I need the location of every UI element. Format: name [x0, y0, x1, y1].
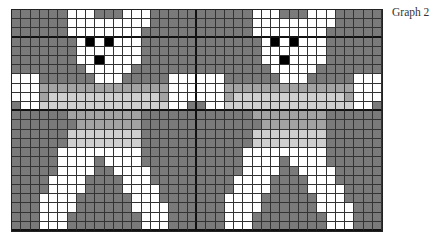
grid-cell — [151, 93, 160, 102]
grid-cell — [21, 38, 30, 47]
grid-cell — [206, 130, 215, 139]
grid-cell — [40, 74, 49, 83]
grid-cell — [243, 176, 252, 185]
grid-cell — [169, 222, 178, 231]
grid-cell — [49, 148, 58, 157]
grid-cell — [86, 213, 95, 222]
grid-cell — [179, 38, 188, 47]
grid-cell — [68, 102, 77, 111]
grid-cell — [253, 47, 262, 56]
grid-cell — [336, 139, 345, 148]
grid-cell — [142, 213, 151, 222]
grid-cell — [327, 222, 336, 231]
grid-cell — [68, 10, 77, 19]
grid-cell — [336, 47, 345, 56]
grid-cell — [77, 157, 86, 166]
grid-cell — [197, 56, 206, 65]
grid-cell — [114, 10, 123, 19]
grid-cell — [345, 130, 354, 139]
grid-cell — [373, 148, 382, 157]
grid-cell — [308, 65, 317, 74]
grid-cell — [179, 74, 188, 83]
grid-cell — [105, 10, 114, 19]
grid-cell — [373, 102, 382, 111]
grid-cell — [345, 203, 354, 212]
grid-cell — [234, 56, 243, 65]
grid-cell — [271, 28, 280, 37]
grid-cell — [95, 74, 104, 83]
grid-cell — [206, 157, 215, 166]
grid-cell — [373, 222, 382, 231]
grid-cell — [132, 47, 141, 56]
grid-cell — [169, 203, 178, 212]
grid-cell — [197, 10, 206, 19]
grid-cell — [280, 194, 289, 203]
grid-cell — [49, 176, 58, 185]
grid-cell — [290, 28, 299, 37]
grid-cell — [364, 10, 373, 19]
grid-cell — [317, 102, 326, 111]
grid-cell — [114, 148, 123, 157]
grid-cell — [68, 19, 77, 28]
grid-cell — [253, 111, 262, 120]
grid-cell — [299, 93, 308, 102]
grid-cell — [262, 56, 271, 65]
grid-cell — [21, 213, 30, 222]
grid-cell — [105, 194, 114, 203]
grid-cell — [114, 139, 123, 148]
grid-cell — [179, 120, 188, 129]
grid-cell — [105, 102, 114, 111]
grid-cell — [49, 74, 58, 83]
grid-cell — [21, 222, 30, 231]
grid-cell — [49, 10, 58, 19]
grid-cell — [123, 10, 132, 19]
grid-cell — [77, 84, 86, 93]
grid-cell — [271, 19, 280, 28]
grid-cell — [354, 19, 363, 28]
grid-cell — [327, 157, 336, 166]
grid-cell — [225, 130, 234, 139]
grid-cell — [12, 203, 21, 212]
grid-cell — [151, 139, 160, 148]
grid-cell — [179, 203, 188, 212]
grid-cell — [114, 47, 123, 56]
grid-cell — [317, 38, 326, 47]
grid-cell — [86, 157, 95, 166]
grid-cell — [105, 84, 114, 93]
grid-cell — [123, 157, 132, 166]
grid-cell — [262, 93, 271, 102]
grid-cell — [345, 167, 354, 176]
grid-cell — [12, 222, 21, 231]
grid-cell — [12, 74, 21, 83]
grid-cell — [40, 38, 49, 47]
grid-cell — [364, 157, 373, 166]
grid-cell — [77, 65, 86, 74]
grid-cell — [12, 185, 21, 194]
grid-cell — [299, 157, 308, 166]
grid-cell — [160, 130, 169, 139]
grid-cell — [234, 120, 243, 129]
grid-cell — [234, 84, 243, 93]
grid-cell — [68, 93, 77, 102]
grid-cell — [225, 203, 234, 212]
grid-cell — [234, 102, 243, 111]
grid-cell — [373, 84, 382, 93]
grid-cell — [142, 10, 151, 19]
grid-cell — [188, 93, 197, 102]
grid-cell — [188, 28, 197, 37]
grid-cell — [151, 167, 160, 176]
grid-cell — [49, 167, 58, 176]
grid-cell — [354, 185, 363, 194]
grid-cell — [262, 10, 271, 19]
grid-cell — [280, 93, 289, 102]
grid-cell — [216, 148, 225, 157]
grid-cell — [142, 19, 151, 28]
grid-cell — [197, 176, 206, 185]
grid-cell — [354, 130, 363, 139]
grid-cell — [308, 130, 317, 139]
grid-cell — [160, 194, 169, 203]
grid-cell — [317, 222, 326, 231]
grid-cell — [290, 84, 299, 93]
grid-cell — [225, 222, 234, 231]
grid-cell — [49, 38, 58, 47]
